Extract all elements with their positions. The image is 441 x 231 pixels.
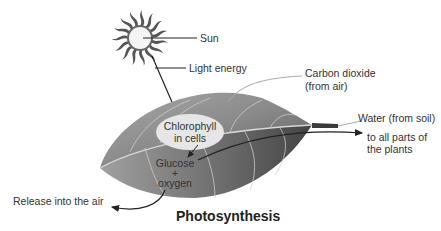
carbon-dioxide-label-1: Carbon dioxide [305, 67, 376, 79]
leaf-illustration [100, 93, 338, 198]
to-all-parts-label-1: to all parts of [367, 131, 427, 143]
oxygen-label: oxygen [150, 177, 200, 189]
to-all-parts-label-2: the plants [367, 143, 413, 155]
diagram-title: Photosynthesis [176, 208, 280, 224]
light-energy-label: Light energy [189, 62, 247, 74]
chlorophyll-label-2: in cells [156, 132, 224, 144]
water-label: Water (from soil) [358, 112, 435, 124]
carbon-dioxide-label-2: (from air) [305, 80, 348, 92]
chlorophyll-label-1: Chlorophyll [156, 120, 224, 132]
release-label: Release into the air [13, 195, 103, 207]
sun-label: Sun [200, 32, 219, 44]
